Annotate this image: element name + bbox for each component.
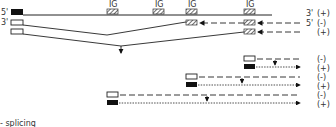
strand-sign: (-): [317, 73, 326, 82]
black-exon-box: [11, 9, 23, 15]
svg-text:IG: IG: [188, 0, 197, 9]
ig-segment: IG: [107, 0, 118, 14]
strand-sign: (+): [317, 100, 330, 109]
three-prime-label: 3': [1, 18, 8, 27]
genomic-row: 5' IG IG IG IG 3' (+): [1, 0, 330, 18]
strand-sign: (-): [317, 91, 326, 100]
svg-text:IG: IG: [246, 0, 255, 9]
ig-segment: IG: [186, 0, 197, 14]
strand-sign: (+): [317, 28, 330, 37]
strand-sign: (+): [317, 9, 330, 18]
footer-caption: - splicing: [0, 119, 36, 127]
svg-text:IG: IG: [109, 0, 118, 9]
ig-segment: IG: [153, 0, 164, 14]
five-prime-label: 5': [306, 19, 313, 28]
product-pair: (-) (+): [244, 55, 330, 73]
product-pair: (-) (+): [186, 73, 330, 91]
strand-sign: (+): [317, 64, 330, 73]
ig-segment: IG: [244, 0, 255, 14]
strand-sign: (-): [317, 19, 326, 28]
svg-text:IG: IG: [155, 0, 164, 9]
transcript-row: (+): [11, 28, 330, 53]
three-prime-label: 3': [306, 9, 313, 18]
strand-sign: (-): [317, 55, 326, 64]
five-prime-label: 5': [1, 8, 8, 17]
splicing-diagram: 5' IG IG IG IG 3' (+) 3' 5' (-): [0, 0, 336, 127]
product-pair: (-) (+): [107, 91, 330, 109]
strand-sign: (+): [317, 82, 330, 91]
